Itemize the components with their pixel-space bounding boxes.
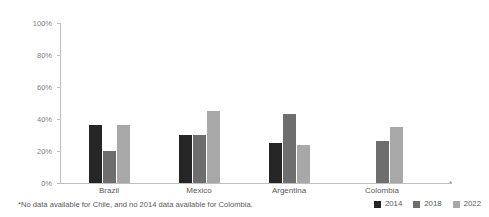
legend-item-2014[interactable]: 2014 <box>374 200 402 208</box>
bar-group <box>89 23 130 183</box>
y-axis-tick-label: 60% <box>18 83 52 92</box>
y-axis-tick-label: 80% <box>18 51 52 60</box>
x-axis-category-label: Mexico <box>159 186 239 195</box>
bar <box>297 145 310 183</box>
legend-label: 2014 <box>385 200 402 208</box>
legend-swatch-icon <box>453 201 460 208</box>
bar <box>179 135 192 183</box>
x-axis-category-label: Argentina <box>249 186 329 195</box>
y-axis-tick-label: 100% <box>18 19 52 28</box>
chart-legend: 201420182022 <box>374 200 481 208</box>
legend-swatch-icon <box>374 201 381 208</box>
bar <box>89 125 102 183</box>
bar <box>103 151 116 183</box>
axis-asterisk-marker: * <box>449 180 452 188</box>
legend-label: 2022 <box>464 200 481 208</box>
bar <box>283 114 296 183</box>
bar-group <box>269 23 310 183</box>
legend-swatch-icon <box>413 201 420 208</box>
chart-footnote: *No data available for Chile, and no 201… <box>18 200 253 209</box>
y-axis-tick-label: 40% <box>18 115 52 124</box>
bar <box>390 127 403 183</box>
bar-group <box>179 23 220 183</box>
plot-area <box>60 23 452 183</box>
bar <box>207 111 220 183</box>
y-axis-tick-label: 0% <box>18 179 52 188</box>
legend-item-2018[interactable]: 2018 <box>413 200 441 208</box>
bar <box>376 141 389 183</box>
y-axis-tick-label: 20% <box>18 147 52 156</box>
x-axis-category-label: Colombia <box>342 186 422 195</box>
bar-chart-figure: Percentage of general population 0%20%40… <box>0 0 489 217</box>
legend-item-2022[interactable]: 2022 <box>453 200 481 208</box>
bar-group <box>362 23 403 183</box>
legend-label: 2018 <box>424 200 441 208</box>
bar <box>269 143 282 183</box>
x-axis-line <box>60 183 452 184</box>
bar <box>193 135 206 183</box>
bar <box>117 125 130 183</box>
x-axis-category-label: Brazil <box>69 186 149 195</box>
